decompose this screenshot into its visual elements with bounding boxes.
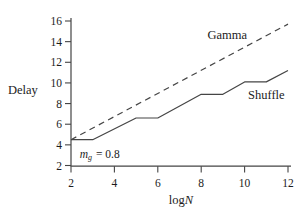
x-axis-label-prefix: log: [169, 193, 185, 207]
y-tick-label: 2: [56, 160, 62, 172]
figure-container: 24681012141624681012 Delay logN Gamma Sh…: [0, 0, 308, 213]
x-axis-label-variable: N: [185, 193, 193, 207]
y-axis-label: Delay: [8, 84, 38, 97]
x-tick-label: 12: [282, 177, 294, 189]
x-tick-label: 6: [155, 177, 161, 189]
y-tick-label: 8: [56, 98, 62, 110]
x-tick-label: 4: [112, 177, 118, 189]
annotation-subscript: g: [88, 153, 92, 162]
x-axis-label: logN: [169, 194, 193, 207]
x-tick-label: 8: [198, 177, 204, 189]
x-tick-label: 2: [68, 177, 74, 189]
y-tick-label: 6: [56, 118, 62, 130]
y-tick-label: 14: [51, 36, 63, 48]
annotation-m: mg= 0.8: [80, 149, 120, 162]
series-label-shuffle: Shuffle: [248, 89, 285, 102]
y-tick-label: 12: [51, 56, 63, 68]
annotation-value: = 0.8: [96, 148, 120, 160]
x-tick-label: 10: [239, 177, 251, 189]
series-label-gamma: Gamma: [207, 29, 247, 42]
y-tick-label: 4: [56, 139, 62, 151]
y-tick-label: 10: [51, 77, 63, 89]
series-line-shuffle: [71, 71, 288, 140]
y-tick-label: 16: [51, 15, 63, 27]
delay-chart: 24681012141624681012: [0, 0, 308, 213]
